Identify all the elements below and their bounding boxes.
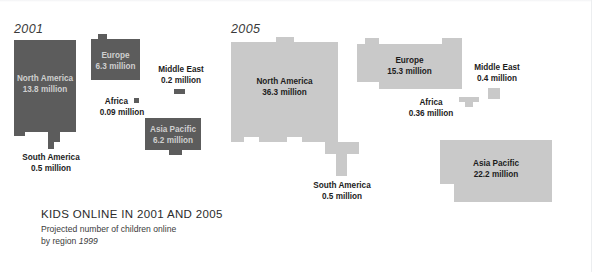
region-block-europe-2005: Europe 15.3 million [357, 44, 462, 89]
caption-block: KIDS ONLINE IN 2001 AND 2005 Projected n… [41, 208, 341, 247]
region-value: 0.5 million [0, 163, 106, 174]
caption-subtitle-line2: by region 1999 [41, 235, 341, 247]
block-stem [336, 154, 347, 176]
region-name: Middle East [474, 63, 520, 72]
region-name: North America [256, 77, 312, 86]
top-divider [0, 0, 591, 2]
block-crossbar [325, 142, 359, 154]
block-tab-top-right [442, 38, 462, 44]
block-notch-bottom-left [357, 82, 379, 89]
block-tab-top [276, 37, 294, 42]
region-label-middle-east-2005: Middle East 0.4 million [466, 62, 528, 84]
region-value: 0.2 million [150, 75, 212, 86]
caption-subtitle-prefix: by region [41, 236, 79, 246]
region-value: 6.3 million [95, 62, 135, 71]
region-value: 36.3 million [262, 88, 307, 97]
region-value: 0.4 million [466, 73, 528, 84]
block-notch-bottom-mid [287, 137, 302, 142]
block-tab-top-left [365, 38, 379, 44]
region-block-north-america-2005: North America 36.3 million [231, 42, 338, 142]
region-marker-africa-2005-stem [465, 102, 473, 107]
region-name: Asia Pacific [150, 125, 196, 134]
region-name: South America [313, 181, 370, 190]
region-value: 13.8 million [23, 85, 68, 94]
region-value: 15.3 million [387, 67, 432, 76]
caption-source-year: 1999 [79, 236, 98, 246]
year-label-2005: 2005 [231, 22, 260, 36]
year-label-2001: 2001 [14, 22, 43, 36]
region-label-asia-pacific-2001: Asia Pacific 6.2 million [145, 124, 201, 146]
region-name: Middle East [158, 65, 204, 74]
block-tab-top [98, 34, 107, 39]
region-block-asia-pacific-2005: Asia Pacific 22.2 million [440, 140, 552, 202]
region-label-north-america-2005: North America 36.3 million [231, 76, 338, 98]
kids-online-infographic: 2001 North America 13.8 million South Am… [0, 0, 592, 272]
block-notch [54, 142, 60, 149]
region-value: 0.09 million [92, 107, 152, 118]
region-value: 22.2 million [474, 170, 519, 179]
region-block-asia-pacific-2001: Asia Pacific 6.2 million [145, 118, 201, 150]
region-label-south-america-2001: South America 0.5 million [0, 152, 106, 174]
region-name: Europe [395, 56, 423, 65]
region-label-asia-pacific-2005: Asia Pacific 22.2 million [440, 158, 552, 180]
region-name: Africa [419, 98, 442, 107]
region-marker-middle-east-2005 [488, 88, 500, 99]
region-label-europe-2001: Europe 6.3 million [91, 50, 140, 72]
region-name: Asia Pacific [473, 159, 519, 168]
region-label-north-america-2001: North America 13.8 million [14, 73, 76, 95]
region-block-north-america-2001: North America 13.8 million [14, 40, 76, 132]
region-block-europe-2001: Europe 6.3 million [91, 39, 140, 80]
region-label-africa-2001: Africa 0.09 million [92, 96, 152, 118]
region-marker-africa-2001 [134, 98, 139, 103]
region-block-south-america-2001 [48, 132, 60, 149]
block-foot-left [14, 132, 25, 136]
region-name: Africa [105, 97, 128, 106]
region-label-europe-2005: Europe 15.3 million [357, 55, 462, 77]
caption-subtitle-line1: Projected number of children online [41, 223, 341, 235]
block-notch-bottom-left [244, 137, 259, 142]
region-value: 0.5 million [292, 191, 392, 202]
region-name: Europe [101, 51, 129, 60]
region-value: 0.36 million [400, 108, 462, 119]
region-value: 6.2 million [153, 136, 193, 145]
region-name: South America [22, 153, 79, 162]
region-label-africa-2005: Africa 0.36 million [400, 97, 462, 119]
region-label-middle-east-2001: Middle East 0.2 million [150, 64, 212, 86]
region-block-south-america-2005 [325, 142, 359, 176]
block-notch-bottom-left [440, 184, 454, 202]
region-label-south-america-2005: South America 0.5 million [292, 180, 392, 202]
region-name: North America [17, 74, 73, 83]
caption-title: KIDS ONLINE IN 2001 AND 2005 [41, 208, 341, 220]
block-tab-bottom [169, 150, 182, 155]
region-marker-middle-east-2001 [174, 89, 185, 94]
